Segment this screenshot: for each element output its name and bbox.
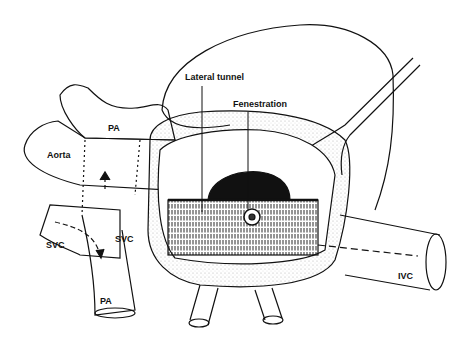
lateral-tunnel-label: Lateral tunnel xyxy=(185,72,244,82)
svc-left-label: SVC xyxy=(46,240,65,250)
tunnel-baffle xyxy=(168,200,318,255)
pa-upper-label: PA xyxy=(108,123,120,133)
ivc-label: IVC xyxy=(398,271,413,281)
fenestration-label: Fenestration xyxy=(233,99,287,109)
pa-lower-label: PA xyxy=(100,296,112,306)
svc-vessel xyxy=(40,205,120,258)
lateral-tunnel-fontan-illustration xyxy=(0,0,468,346)
svc-inner-label: SVC xyxy=(115,234,134,244)
aorta-label: Aorta xyxy=(47,150,71,160)
